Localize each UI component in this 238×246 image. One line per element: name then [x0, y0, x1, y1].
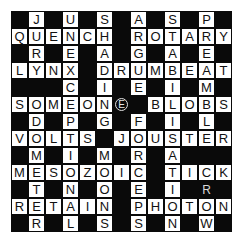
letter-cell[interactable]: R [12, 199, 27, 214]
letter-cell[interactable]: P [199, 12, 214, 27]
letter-cell[interactable]: O [199, 199, 214, 214]
letter-cell[interactable]: L [46, 131, 61, 146]
letter-cell[interactable]: I [165, 114, 180, 129]
letter-cell[interactable]: I [114, 165, 129, 180]
letter-cell[interactable]: A [199, 63, 214, 78]
letter-cell[interactable]: I [182, 165, 197, 180]
letter-cell[interactable]: O [148, 29, 163, 44]
letter-cell[interactable]: L [199, 114, 214, 129]
letter-cell[interactable]: Y [29, 63, 44, 78]
letter-cell[interactable]: S [165, 12, 180, 27]
letter-cell[interactable]: P [131, 199, 146, 214]
letter-cell[interactable]: M [199, 80, 214, 95]
letter-cell[interactable]: N [63, 182, 78, 197]
letter-cell[interactable]: H [148, 199, 163, 214]
letter-cell[interactable]: T [63, 131, 78, 146]
letter-cell[interactable]: S [46, 165, 61, 180]
letter-cell[interactable]: C [131, 165, 146, 180]
letter-cell[interactable]: U [131, 63, 146, 78]
letter-cell[interactable]: A [63, 199, 78, 214]
letter-cell[interactable]: N [165, 216, 180, 231]
letter-cell[interactable]: O [29, 131, 44, 146]
letter-cell[interactable]: B [148, 97, 163, 112]
letter-cell[interactable]: L [63, 216, 78, 231]
letter-cell[interactable]: I [63, 148, 78, 163]
letter-cell[interactable]: T [216, 63, 231, 78]
letter-cell[interactable]: J [29, 12, 44, 27]
letter-cell[interactable]: G [131, 46, 146, 61]
letter-cell[interactable]: A [97, 46, 112, 61]
letter-cell[interactable]: S [165, 131, 180, 146]
letter-cell[interactable]: I [80, 199, 95, 214]
letter-cell[interactable]: E [63, 46, 78, 61]
letter-cell[interactable]: J [114, 131, 129, 146]
letter-cell[interactable]: D [97, 63, 112, 78]
letter-cell[interactable]: L [165, 97, 180, 112]
letter-cell[interactable]: L [12, 63, 27, 78]
letter-cell[interactable]: P [63, 114, 78, 129]
letter-cell[interactable]: S [97, 216, 112, 231]
letter-cell[interactable]: U [29, 29, 44, 44]
letter-cell[interactable]: U [148, 131, 163, 146]
letter-cell[interactable]: M [46, 97, 61, 112]
letter-cell[interactable]: I [165, 80, 180, 95]
letter-cell[interactable]: N [46, 63, 61, 78]
letter-cell[interactable]: K [216, 165, 231, 180]
letter-cell[interactable]: C [199, 165, 214, 180]
letter-cell[interactable]: N [97, 199, 112, 214]
letter-cell[interactable]: E [131, 80, 146, 95]
letter-cell[interactable]: R [29, 216, 44, 231]
letter-cell[interactable]: T [182, 199, 197, 214]
letter-cell[interactable]: R [216, 131, 231, 146]
letter-cell[interactable]: S [216, 97, 231, 112]
letter-cell[interactable]: R [29, 46, 44, 61]
letter-cell[interactable]: C [80, 29, 95, 44]
letter-cell[interactable]: V [12, 131, 27, 146]
letter-cell[interactable]: E [46, 29, 61, 44]
letter-cell[interactable]: N [63, 29, 78, 44]
letter-cell[interactable]: F [131, 114, 146, 129]
letter-cell[interactable]: N [216, 199, 231, 214]
letter-cell[interactable]: R [131, 148, 146, 163]
letter-cell[interactable]: R [114, 63, 129, 78]
letter-cell[interactable]: H [97, 29, 112, 44]
letter-cell[interactable]: E [131, 182, 146, 197]
letter-cell[interactable]: E [199, 131, 214, 146]
letter-cell[interactable]: R [199, 29, 214, 44]
letter-cell[interactable]: Q [12, 29, 27, 44]
letter-cell[interactable]: C [63, 80, 78, 95]
letter-cell[interactable]: S [131, 216, 146, 231]
letter-cell[interactable]: X [63, 63, 78, 78]
letter-cell[interactable]: U [63, 12, 78, 27]
letter-cell[interactable]: W [199, 216, 214, 231]
letter-cell[interactable]: O [182, 97, 197, 112]
letter-cell[interactable]: O [97, 165, 112, 180]
letter-cell[interactable]: M [97, 148, 112, 163]
letter-cell[interactable]: E [29, 199, 44, 214]
letter-cell[interactable]: T [165, 29, 180, 44]
letter-cell[interactable]: D [29, 114, 44, 129]
letter-cell[interactable]: T [29, 182, 44, 197]
letter-cell[interactable]: I [165, 182, 180, 197]
letter-cell[interactable]: S [12, 97, 27, 112]
letter-cell[interactable]: B [199, 97, 214, 112]
letter-cell[interactable]: O [97, 182, 112, 197]
letter-cell[interactable]: O [29, 97, 44, 112]
letter-cell[interactable]: M [29, 148, 44, 163]
letter-cell[interactable]: N [97, 97, 112, 112]
letter-cell[interactable]: T [182, 131, 197, 146]
letter-cell[interactable]: Y [216, 29, 231, 44]
letter-cell[interactable]: A [131, 12, 146, 27]
letter-cell[interactable]: E [199, 46, 214, 61]
letter-cell[interactable]: A [165, 46, 180, 61]
letter-cell[interactable]: S [97, 12, 112, 27]
letter-cell[interactable]: E [29, 165, 44, 180]
letter-cell[interactable]: O [80, 97, 95, 112]
letter-cell[interactable]: E [182, 63, 197, 78]
letter-cell[interactable]: G [97, 114, 112, 129]
letter-cell[interactable]: T [165, 165, 180, 180]
letter-cell[interactable]: I [97, 80, 112, 95]
letter-cell[interactable]: M [12, 165, 27, 180]
letter-cell[interactable]: R [131, 29, 146, 44]
letter-cell[interactable]: E [63, 97, 78, 112]
